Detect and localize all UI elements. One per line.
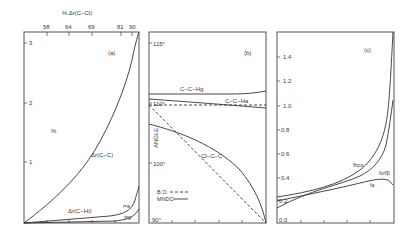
top-tick-81: 81 xyxy=(117,24,124,30)
svg-text:1.2: 1.2 xyxy=(283,78,292,84)
top-axis-title: % Δr(C−Cl) xyxy=(62,10,92,16)
svg-text:100°: 100° xyxy=(153,161,166,167)
label-fhco: fhco xyxy=(353,162,363,168)
svg-text:3: 3 xyxy=(29,40,33,46)
panel-a-label: (a) xyxy=(108,50,115,56)
label-fa: fa xyxy=(370,182,376,188)
top-axis-ticks: 58 64 69 81 90 xyxy=(43,24,136,36)
svg-text:0.6: 0.6 xyxy=(281,151,290,157)
curve-dr-ch-a xyxy=(24,186,139,223)
label-clcc: Cl−C−C xyxy=(201,153,223,159)
svg-text:0.0: 0.0 xyxy=(279,217,288,223)
panel-a: % Δr(C−Cl) 58 64 69 81 90 3 2 1 xyxy=(24,10,139,223)
label-i-a: i=a xyxy=(123,203,130,209)
label-ccha: C−C−Ha xyxy=(225,98,249,104)
legend: B.O. MNDO xyxy=(157,189,188,202)
panel-c-y-ticks: 1.4 1.2 1.0 0.8 0.6 0.4 0.2 0.0 xyxy=(277,54,292,223)
figure: % Δr(C−Cl) 58 64 69 81 90 3 2 1 xyxy=(0,0,417,240)
label-fa-fb: fα/fβ xyxy=(379,170,390,176)
panel-c-label: (c) xyxy=(364,47,371,53)
curve-fa xyxy=(277,179,393,201)
svg-text:90°: 90° xyxy=(152,217,162,223)
panel-b-label: (b) xyxy=(244,50,251,56)
svg-text:110°: 110° xyxy=(153,101,166,107)
curve-fa-fb xyxy=(277,100,393,208)
top-tick-69: 69 xyxy=(88,24,95,30)
top-tick-90: 90 xyxy=(129,24,136,30)
curve-clcc-mndo xyxy=(149,124,266,223)
label-cchg: C−C−Hg xyxy=(180,86,203,92)
curve-fhco xyxy=(277,32,393,197)
curve-dr-cc xyxy=(24,32,139,223)
panel-a-ylabel: % xyxy=(51,128,57,134)
panel-a-y-ticks: 3 2 1 xyxy=(24,40,33,165)
curve-ccha xyxy=(149,99,266,108)
label-dr-cc: Δr(C−C) xyxy=(91,152,113,158)
svg-text:2: 2 xyxy=(29,100,33,106)
curve-clcc-bo xyxy=(149,105,266,223)
top-tick-64: 64 xyxy=(65,24,72,30)
svg-text:1: 1 xyxy=(29,159,33,165)
svg-text:0.8: 0.8 xyxy=(281,127,290,133)
panel-a-frame xyxy=(24,32,139,223)
svg-text:0.4: 0.4 xyxy=(281,175,290,181)
label-dr-ch: Δr(C−Hi) xyxy=(68,208,92,214)
svg-text:1.0: 1.0 xyxy=(283,103,292,109)
svg-text:1.4: 1.4 xyxy=(283,54,292,60)
top-tick-58: 58 xyxy=(43,24,50,30)
panel-b-ylabel: ANGLE xyxy=(153,128,159,148)
panel-b: 115° 110° 100° 90° (b) ANGLE C−C−Hg C−C−… xyxy=(149,32,266,223)
svg-text:115°: 115° xyxy=(153,41,166,47)
curve-cchg xyxy=(149,91,266,94)
legend-mndo-label: MNDO xyxy=(157,196,175,202)
panel-c: 1.4 1.2 1.0 0.8 0.6 0.4 0.2 0.0 (c) fhco… xyxy=(277,32,394,223)
label-i-g: i=g xyxy=(124,214,131,220)
legend-bo-label: B.O. xyxy=(157,189,168,195)
